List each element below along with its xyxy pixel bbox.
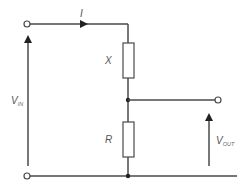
output-terminal: [215, 97, 221, 103]
vin-arrow-icon: [24, 35, 32, 43]
vout-label: VOUT: [216, 135, 235, 147]
resistor-x: [123, 43, 134, 78]
current-arrow-icon: [80, 20, 88, 28]
vin-label: VIN: [11, 95, 23, 107]
ground-junction-dot: [126, 174, 130, 178]
vout-arrow-icon: [205, 113, 213, 121]
input-terminal-top: [24, 21, 30, 27]
current-label: I: [80, 8, 83, 19]
resistor-r: [123, 122, 134, 157]
resistor-x-label: X: [104, 55, 112, 66]
circuit-diagram: I X R VIN VOUT: [0, 0, 244, 190]
input-terminal-bottom: [24, 173, 30, 179]
resistor-r-label: R: [105, 134, 112, 145]
